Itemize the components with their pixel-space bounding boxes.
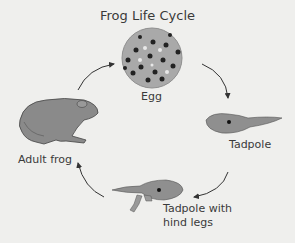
arrow-egg-to-tadpole	[202, 64, 228, 98]
stage-label-tadpole-legs-line2: hind legs	[163, 216, 213, 229]
stage-label-tadpole: Tadpole	[229, 138, 271, 151]
arrow-legs-to-frog	[78, 163, 104, 197]
arrow-frog-to-egg	[78, 64, 114, 90]
life-cycle-illustration	[0, 0, 295, 243]
tadpole-icon	[206, 114, 282, 134]
arrow-tadpole-to-legs	[194, 172, 228, 197]
stage-label-tadpole-legs-line1: Tadpole with	[163, 202, 232, 215]
stage-label-adult-frog: Adult frog	[18, 153, 72, 166]
egg-icon	[122, 28, 182, 88]
stage-label-egg: Egg	[141, 90, 162, 103]
adult-frog-icon	[19, 99, 98, 145]
